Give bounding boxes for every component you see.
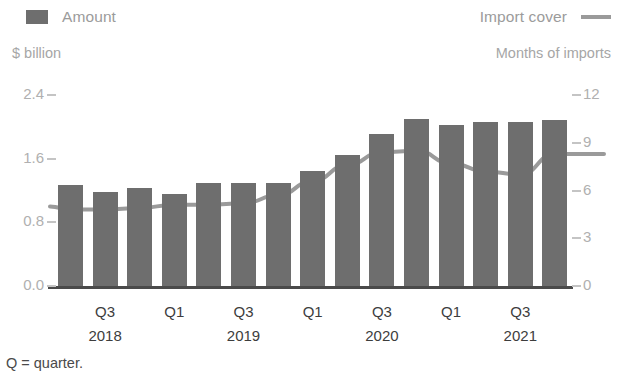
right-axis-tick-label: 6	[583, 181, 617, 198]
bar	[266, 183, 291, 286]
chart-container: Amount Import cover $ billion Months of …	[0, 0, 617, 379]
x-axis-baseline	[48, 286, 573, 289]
bar	[231, 183, 256, 286]
bar	[300, 171, 325, 286]
x-axis-quarter-label: Q1	[293, 303, 333, 320]
left-axis-tick-mark	[47, 285, 56, 287]
x-axis-quarter-label: Q3	[500, 303, 540, 320]
left-axis-tick-mark	[47, 221, 56, 223]
right-axis-tick-mark	[572, 285, 581, 287]
x-axis-year-label: 2020	[352, 327, 412, 344]
left-axis-tick-mark	[47, 158, 56, 160]
x-axis-year-label: 2021	[490, 327, 550, 344]
x-axis-quarter-label: Q1	[154, 303, 194, 320]
left-axis-tick-label: 0.8	[10, 212, 44, 229]
x-axis-quarter-label: Q3	[85, 303, 125, 320]
x-axis-year-label: 2018	[75, 327, 135, 344]
right-axis-tick-mark	[572, 94, 581, 96]
right-axis-tick-mark	[572, 190, 581, 192]
right-axis-tick-label: 0	[583, 276, 617, 293]
chart-footnote: Q = quarter.	[6, 355, 83, 371]
bar	[162, 194, 187, 286]
bar	[196, 183, 221, 286]
plot-area: 2.41.60.80.0129630Q3Q1Q3Q1Q3Q1Q320182019…	[0, 0, 617, 379]
x-axis-quarter-label: Q1	[431, 303, 471, 320]
bar	[404, 119, 429, 286]
bar	[127, 188, 152, 286]
right-axis-tick-mark	[572, 237, 581, 239]
right-axis-tick-label: 9	[583, 133, 617, 150]
bar	[369, 134, 394, 286]
bar	[508, 122, 533, 286]
x-axis-quarter-label: Q3	[362, 303, 402, 320]
left-axis-tick-label: 1.6	[10, 149, 44, 166]
bar	[439, 125, 464, 286]
bar	[335, 155, 360, 286]
right-axis-tick-label: 12	[583, 85, 617, 102]
bar	[58, 185, 83, 286]
bar	[93, 192, 118, 286]
x-axis-quarter-label: Q3	[224, 303, 264, 320]
right-axis-tick-mark	[572, 142, 581, 144]
left-axis-tick-label: 0.0	[10, 276, 44, 293]
x-axis-year-label: 2019	[214, 327, 274, 344]
left-axis-tick-mark	[47, 94, 56, 96]
left-axis-tick-label: 2.4	[10, 85, 44, 102]
right-axis-tick-label: 3	[583, 228, 617, 245]
bar	[542, 120, 567, 286]
bar	[473, 122, 498, 286]
